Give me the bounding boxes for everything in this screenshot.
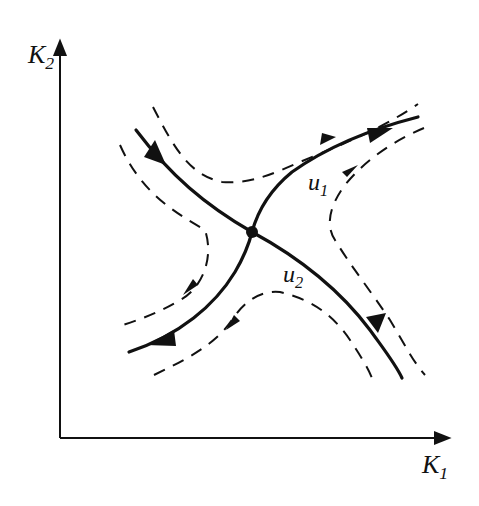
arrowhead-top (320, 133, 336, 145)
dashed-trajectory-left (116, 145, 208, 327)
curve-label-u1-subscript: 1 (320, 181, 328, 200)
curve-label-u1: u1 (308, 170, 328, 199)
arrowhead-bottom (226, 315, 240, 330)
curve-label-u2-subscript: 2 (295, 273, 303, 292)
curve-label-u2-main: u (283, 261, 295, 287)
x-axis-label: K1 (422, 452, 448, 483)
saddle-point (246, 226, 258, 238)
arrowhead-u1-lower-left (146, 330, 176, 346)
y-axis-label-main: K (28, 40, 45, 69)
x-axis-label-subscript: 1 (439, 463, 448, 483)
phase-portrait-svg (0, 0, 479, 506)
y-axis-label: K2 (28, 42, 54, 73)
phase-portrait-figure: K2 K1 u1 u2 (0, 0, 479, 506)
y-axis-label-subscript: 2 (45, 53, 54, 73)
arrowhead-u1-upper-right (367, 128, 393, 143)
arrowhead-right (342, 165, 358, 177)
curve-label-u1-main: u (308, 169, 320, 195)
axes (60, 42, 448, 438)
dashed-trajectory-top (153, 104, 418, 182)
curve-label-u2: u2 (283, 262, 303, 291)
x-axis-label-main: K (422, 450, 439, 479)
dashed-trajectory-bottom (154, 292, 372, 378)
